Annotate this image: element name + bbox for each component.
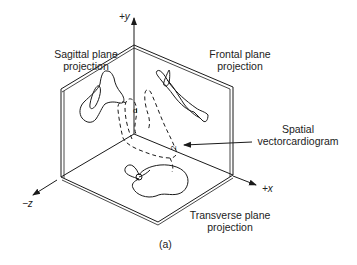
- transverse-label-line1: Transverse plane: [175, 209, 285, 221]
- spatial-label-line1: Spatial: [248, 123, 348, 135]
- sagittal-loop: [80, 71, 124, 122]
- frontal-loop: [156, 70, 208, 122]
- figure-caption: (a): [159, 238, 172, 250]
- frontal-label: Frontal plane projection: [190, 48, 290, 72]
- z-axis-label: −z: [22, 198, 33, 209]
- transverse-label: Transverse plane projection: [175, 209, 285, 233]
- sagittal-label-line2: projection: [36, 60, 136, 72]
- spatial-label: Spatial vectorcardiogram: [248, 123, 348, 147]
- svg-text:2: 2: [169, 145, 178, 150]
- sagittal-label-line1: Sagittal plane: [36, 48, 136, 60]
- transverse-loop: [125, 165, 188, 197]
- vectorcardiogram-diagram: 2 d Sagittal plane projection Frontal pl…: [0, 0, 357, 265]
- svg-text:d: d: [133, 106, 137, 115]
- x-axis-arrow: [233, 176, 256, 185]
- spatial-loop: [118, 90, 177, 172]
- z-axis-arrow: [33, 180, 57, 195]
- sagittal-label: Sagittal plane projection: [36, 48, 136, 72]
- frontal-label-line2: projection: [190, 60, 290, 72]
- x-axis-label: +x: [262, 183, 273, 194]
- spatial-label-line2: vectorcardiogram: [248, 135, 348, 147]
- transverse-label-line2: projection: [175, 221, 285, 233]
- spatial-leader-line: [184, 142, 252, 145]
- frontal-label-line1: Frontal plane: [190, 48, 290, 60]
- y-axis-label: +y: [119, 11, 130, 22]
